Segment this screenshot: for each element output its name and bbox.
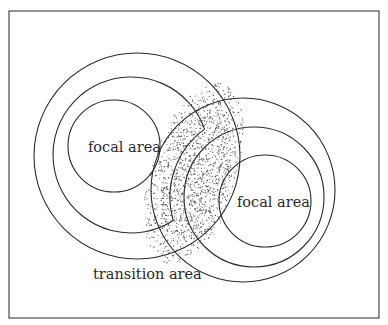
focal-transition-diagram: focal area focal area transition area <box>0 0 388 325</box>
transition-area-label: transition area <box>93 266 202 282</box>
right-outer-ring <box>151 98 335 282</box>
right-focal-label: focal area <box>237 194 310 210</box>
left-focal-label: focal area <box>88 139 161 155</box>
left-outer-ring <box>34 53 240 259</box>
